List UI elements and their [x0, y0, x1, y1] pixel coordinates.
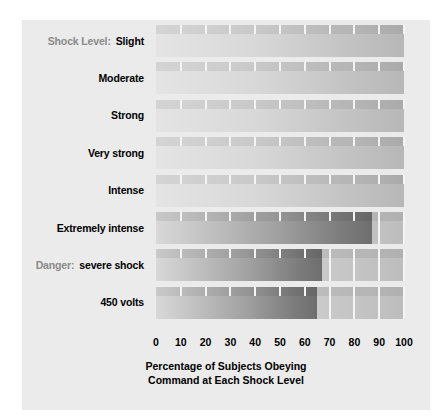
- tick-mark: [403, 62, 405, 71]
- tick-mark: [353, 25, 355, 34]
- tick-mark: [329, 62, 331, 71]
- tick-mark: [378, 62, 380, 71]
- gridline: [403, 249, 405, 281]
- tick-mark: [353, 212, 355, 221]
- tick-mark: [304, 100, 306, 109]
- row-label-text: Strong: [111, 109, 144, 121]
- tick-mark: [254, 100, 256, 109]
- tick-mark: [229, 287, 231, 296]
- x-axis-title: Percentage of Subjects Obeying Command a…: [22, 360, 430, 387]
- tick-mark: [329, 137, 331, 146]
- tick-mark: [403, 175, 405, 184]
- tick-mark: [205, 137, 207, 146]
- tick-mark: [229, 25, 231, 34]
- row-label: 450 volts: [22, 284, 150, 321]
- bar-track: [156, 212, 404, 244]
- row-label-text: Extremely intense: [57, 222, 144, 234]
- x-axis-tick-label: 10: [175, 336, 187, 348]
- tick-mark: [279, 100, 281, 109]
- tick-strip: [156, 137, 404, 146]
- tick-mark: [229, 100, 231, 109]
- chart-row: Extremely intense: [22, 209, 430, 246]
- row-label: Strong: [22, 97, 150, 134]
- tick-mark: [403, 100, 405, 109]
- tick-mark: [353, 100, 355, 109]
- row-label-text: Intense: [108, 184, 144, 196]
- chart-row: Very strong: [22, 134, 430, 171]
- tick-mark: [279, 287, 281, 296]
- tick-mark: [254, 62, 256, 71]
- gridline: [353, 287, 355, 319]
- tick-mark: [205, 212, 207, 221]
- tick-mark: [403, 25, 405, 34]
- tick-mark: [304, 137, 306, 146]
- tick-strip: [156, 212, 404, 221]
- tick-mark: [304, 25, 306, 34]
- tick-mark: [180, 25, 182, 34]
- tick-mark: [353, 62, 355, 71]
- tick-strip: [156, 100, 404, 109]
- bar-track: [156, 100, 404, 132]
- tick-mark: [254, 137, 256, 146]
- chart-row: Intense: [22, 172, 430, 209]
- tick-strip: [156, 287, 404, 296]
- tick-mark: [329, 25, 331, 34]
- tick-mark: [229, 137, 231, 146]
- tick-strip: [156, 249, 404, 258]
- tick-mark: [205, 249, 207, 258]
- tick-mark: [378, 25, 380, 34]
- tick-mark: [229, 175, 231, 184]
- tick-strip: [156, 175, 404, 184]
- bar-track: [156, 287, 404, 319]
- row-label: Shock Level:Slight: [22, 22, 150, 59]
- bar-track: [156, 175, 404, 207]
- gridline: [353, 249, 355, 281]
- tick-mark: [403, 137, 405, 146]
- row-label-text: Moderate: [99, 72, 144, 84]
- tick-mark: [180, 212, 182, 221]
- x-axis-title-line-2: Command at Each Shock Level: [22, 374, 430, 388]
- tick-mark: [304, 62, 306, 71]
- gridline: [403, 287, 405, 319]
- row-label-prefix: Shock Level:: [48, 35, 111, 47]
- tick-mark: [180, 249, 182, 258]
- x-axis-tick-label: 50: [274, 336, 286, 348]
- gridline: [329, 287, 331, 319]
- chart-panel: Shock Level:SlightModerateStrongVery str…: [22, 20, 430, 410]
- x-axis: 0102030405060708090100: [156, 336, 404, 354]
- x-axis-tick-label: 60: [299, 336, 311, 348]
- row-label: Intense: [22, 172, 150, 209]
- row-label: Extremely intense: [22, 209, 150, 246]
- tick-mark: [329, 100, 331, 109]
- row-label-prefix: Danger:: [36, 259, 75, 271]
- tick-mark: [353, 137, 355, 146]
- tick-mark: [279, 62, 281, 71]
- bar-track: [156, 137, 404, 169]
- chart-row: 450 volts: [22, 284, 430, 321]
- tick-mark: [279, 25, 281, 34]
- gridline: [403, 212, 405, 244]
- tick-mark: [180, 137, 182, 146]
- x-axis-tick-label: 70: [324, 336, 336, 348]
- row-label-text: severe shock: [79, 259, 144, 271]
- tick-mark: [180, 100, 182, 109]
- tick-mark: [353, 175, 355, 184]
- x-axis-tick-label: 30: [225, 336, 237, 348]
- gridline: [329, 249, 331, 281]
- tick-mark: [205, 175, 207, 184]
- row-label-text: 450 volts: [100, 296, 144, 308]
- x-axis-tick-label: 100: [395, 336, 413, 348]
- tick-mark: [279, 175, 281, 184]
- row-label: Very strong: [22, 134, 150, 171]
- tick-mark: [304, 212, 306, 221]
- x-axis-tick-label: 0: [153, 336, 159, 348]
- tick-mark: [229, 212, 231, 221]
- x-axis-title-line-1: Percentage of Subjects Obeying: [22, 360, 430, 374]
- x-axis-tick-label: 40: [249, 336, 261, 348]
- tick-mark: [304, 175, 306, 184]
- row-label-text: Very strong: [88, 147, 144, 159]
- tick-mark: [229, 62, 231, 71]
- tick-mark: [180, 175, 182, 184]
- chart-row: Strong: [22, 97, 430, 134]
- chart-row: Danger:severe shock: [22, 246, 430, 283]
